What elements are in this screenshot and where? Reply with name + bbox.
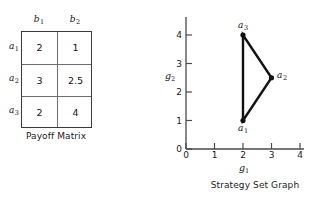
matrix-cell: 4 xyxy=(58,97,93,129)
data-point-a3 xyxy=(240,32,245,37)
strategy-set-graph-panel: 0 1 2 3 4 0 1 2 3 4 a1 a2 a3 g1 g2 Strat… xyxy=(150,0,320,202)
matrix-row-header-a3: a3 xyxy=(3,105,19,117)
matrix-row-header-a2: a2 xyxy=(3,73,19,85)
x-axis-title-subscript: 1 xyxy=(245,167,249,175)
point-label-a1-subscript: 1 xyxy=(244,127,248,135)
matrix-cell: 2.5 xyxy=(58,65,93,97)
point-label-a2: a2 xyxy=(277,70,287,82)
matrix-column-header-b1-subscript: 1 xyxy=(40,18,44,26)
matrix-row-header-a2-base: a xyxy=(9,73,14,83)
x-tick-label: 4 xyxy=(293,150,307,160)
figure-root: b1 b2 a1 a2 a3 2 1 3 2.5 2 4 Payoff Matr… xyxy=(0,0,320,202)
y-tick-label: 2 xyxy=(170,87,182,97)
x-axis-ticks xyxy=(186,143,300,149)
payoff-matrix-grid: 2 1 3 2.5 2 4 xyxy=(21,31,92,128)
point-label-a2-subscript: 2 xyxy=(283,74,287,82)
point-label-a3: a3 xyxy=(238,20,248,32)
data-point-a2 xyxy=(269,75,274,80)
y-axis-title: g2 xyxy=(158,70,182,83)
matrix-cell: 2 xyxy=(22,97,57,129)
y-tick-label: 0 xyxy=(170,144,182,154)
x-axis-title: g1 xyxy=(232,162,256,175)
matrix-column-header-b2-base: b xyxy=(70,14,76,24)
matrix-row-header-a1: a1 xyxy=(3,41,19,53)
x-tick-label: 1 xyxy=(208,150,222,160)
strategy-set-triangle xyxy=(243,35,272,121)
point-label-a1-base: a xyxy=(238,123,243,133)
y-tick-label: 1 xyxy=(170,116,182,126)
x-tick-label: 3 xyxy=(265,150,279,160)
matrix-column-header-b1: b1 xyxy=(21,14,57,26)
matrix-cell: 3 xyxy=(22,65,57,97)
matrix-row-header-a1-base: a xyxy=(9,41,14,51)
point-label-a3-base: a xyxy=(238,20,243,30)
matrix-row-header-a3-base: a xyxy=(9,105,14,115)
strategy-set-graph-caption: Strategy Set Graph xyxy=(195,180,315,190)
matrix-column-header-b1-base: b xyxy=(34,14,40,24)
payoff-matrix-caption: Payoff Matrix xyxy=(6,131,106,141)
matrix-cell: 1 xyxy=(58,32,93,64)
y-tick-label: 4 xyxy=(170,30,182,40)
matrix-column-header-b2-subscript: 2 xyxy=(76,18,80,26)
y-axis-ticks xyxy=(186,35,192,149)
matrix-row-header-a3-subscript: 3 xyxy=(15,109,19,117)
y-axis-title-subscript: 2 xyxy=(171,75,175,83)
x-tick-label: 2 xyxy=(236,150,250,160)
matrix-row-header-a2-subscript: 2 xyxy=(15,77,19,85)
payoff-matrix-panel: b1 b2 a1 a2 a3 2 1 3 2.5 2 4 Payoff Matr… xyxy=(0,0,150,202)
matrix-cell: 2 xyxy=(22,32,57,64)
matrix-column-header-b2: b2 xyxy=(57,14,93,26)
point-label-a3-subscript: 3 xyxy=(244,24,248,32)
point-label-a1: a1 xyxy=(238,123,248,135)
y-tick-label: 3 xyxy=(170,59,182,69)
point-label-a2-base: a xyxy=(277,70,282,80)
matrix-row-header-a1-subscript: 1 xyxy=(15,45,19,53)
